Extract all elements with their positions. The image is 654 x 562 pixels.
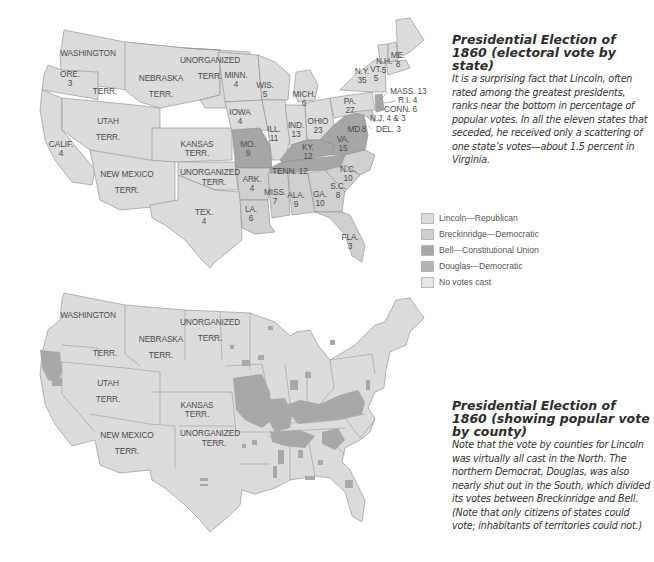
legend-item-breckinridge: Breckinridge—Democratic (421, 226, 581, 242)
caption-body: It is a surprising fact that Lincoln, of… (452, 72, 652, 167)
map-legend: Lincoln—Republican Breckinridge—Democrat… (421, 210, 581, 290)
swatch-bell (421, 245, 434, 256)
legend-label: No votes cast (439, 277, 491, 287)
label-maryland: MD.8 (348, 124, 367, 134)
legend-label: Breckinridge—Democratic (439, 229, 539, 239)
label-kansas-terr: KANSASTERR. (180, 400, 214, 419)
label-tennessee: TENN. 12 (272, 166, 308, 176)
swatch-breckinridge (421, 229, 434, 240)
label-kansas-terr: KANSASTERR. (180, 139, 214, 158)
swatch-douglas (421, 261, 434, 272)
legend-label: Lincoln—Republican (439, 213, 518, 223)
legend-label: Douglas—Democratic (439, 261, 523, 271)
swatch-lincoln (421, 213, 434, 224)
electoral-vote-map: WASHINGTONTERR. ORE.3 NEBRASKATERR. UNOR… (30, 8, 430, 308)
caption-body: Note that the vote by counties for Linco… (452, 438, 652, 533)
popular-vote-county-map: WASHINGTONTERR. NEBRASKATERR. UNORGANIZE… (30, 288, 440, 558)
caption-title: Presidential Election of 1860 (showing p… (452, 399, 652, 438)
callout-nj: N.J. 4 & 3 (370, 113, 406, 123)
legend-label: Bell—Constitutional Union (439, 245, 539, 255)
label-pennsylvania: PA.27 (344, 96, 356, 115)
callout-del: DEL. 3 (376, 124, 401, 134)
caption-title: Presidential Election of 1860 (electoral… (452, 33, 652, 72)
caption-electoral-vote: Presidential Election of 1860 (electoral… (452, 33, 652, 167)
swatch-no-votes (421, 277, 434, 288)
caption-popular-vote: Presidential Election of 1860 (showing p… (452, 399, 652, 533)
region-new-jersey (375, 94, 384, 112)
region-west (40, 293, 424, 532)
legend-item-lincoln: Lincoln—Republican (421, 210, 581, 226)
legend-item-douglas: Douglas—Democratic (421, 258, 581, 274)
label-kentucky: KY.12 (302, 142, 314, 161)
legend-item-no-votes: No votes cast (421, 274, 581, 290)
label-virginia: VA.15 (337, 134, 349, 153)
legend-item-bell: Bell—Constitutional Union (421, 242, 581, 258)
